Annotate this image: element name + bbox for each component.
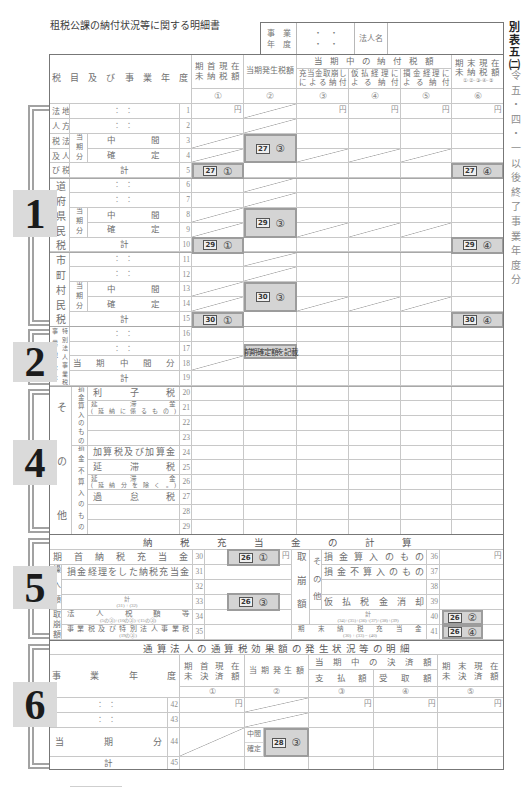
amount-cell[interactable]	[349, 253, 401, 268]
fiscal-period-cell[interactable]: ： ：	[70, 342, 180, 357]
amount-cell[interactable]	[192, 178, 244, 193]
amount-cell[interactable]	[192, 193, 244, 208]
amount-cell[interactable]	[244, 505, 297, 520]
amount-cell[interactable]	[244, 460, 297, 475]
amount-cell[interactable]	[309, 728, 374, 757]
amount-cell[interactable]	[349, 431, 401, 446]
amount-cell[interactable]	[452, 149, 504, 164]
amount-cell[interactable]	[452, 356, 504, 371]
amount-cell[interactable]	[192, 520, 244, 535]
amount-cell[interactable]	[297, 193, 349, 208]
amount-cell[interactable]	[401, 163, 452, 178]
amount-cell[interactable]	[452, 267, 504, 282]
amount-cell[interactable]	[192, 505, 244, 520]
amount-cell[interactable]	[349, 505, 401, 520]
amount-cell[interactable]	[192, 327, 244, 342]
amount-cell[interactable]	[245, 757, 309, 770]
amount-cell[interactable]	[401, 134, 452, 149]
amount-cell[interactable]	[192, 401, 244, 416]
amount-cell[interactable]	[244, 163, 297, 178]
amount-cell[interactable]	[297, 267, 349, 282]
fiscal-period-cell[interactable]: ： ：	[70, 327, 180, 342]
amount-cell[interactable]	[349, 193, 401, 208]
amount-cell[interactable]: 円	[440, 550, 504, 565]
amount-cell[interactable]	[192, 267, 244, 282]
amount-cell[interactable]	[205, 610, 292, 625]
amount-cell[interactable]	[452, 446, 504, 461]
amount-cell[interactable]	[401, 356, 452, 371]
amount-cell[interactable]	[349, 356, 401, 371]
amount-cell[interactable]	[401, 416, 452, 431]
amount-cell[interactable]	[297, 431, 349, 446]
fiscal-period-cell[interactable]: ： ：	[70, 119, 180, 134]
amount-cell[interactable]	[244, 416, 297, 431]
amount-cell[interactable]	[452, 342, 504, 357]
amount-cell[interactable]	[205, 625, 292, 640]
amount-cell[interactable]	[192, 460, 244, 475]
amount-cell[interactable]	[440, 595, 504, 610]
amount-cell[interactable]	[401, 253, 452, 268]
row-label[interactable]	[88, 505, 180, 520]
amount-cell[interactable]	[309, 757, 374, 770]
amount-cell[interactable]	[244, 490, 297, 505]
amount-cell[interactable]: 円	[452, 104, 504, 119]
amount-cell[interactable]	[401, 342, 452, 357]
amount-cell[interactable]	[244, 520, 297, 535]
amount-cell[interactable]	[349, 178, 401, 193]
amount-cell[interactable]	[297, 475, 349, 490]
amount-cell[interactable]	[244, 371, 297, 386]
amount-cell[interactable]	[401, 267, 452, 282]
amount-cell[interactable]	[192, 416, 244, 431]
amount-cell[interactable]	[297, 386, 349, 401]
amount-cell[interactable]: 円	[374, 698, 438, 713]
amount-cell[interactable]	[452, 416, 504, 431]
amount-cell[interactable]	[374, 728, 438, 757]
amount-cell[interactable]	[401, 431, 452, 446]
amount-cell[interactable]	[297, 253, 349, 268]
amount-cell[interactable]	[192, 119, 244, 134]
amount-cell[interactable]	[401, 119, 452, 134]
amount-cell[interactable]	[349, 327, 401, 342]
amount-cell[interactable]: 円	[438, 698, 504, 713]
amount-cell[interactable]	[438, 728, 504, 757]
amount-cell[interactable]	[401, 238, 452, 253]
amount-cell[interactable]	[297, 505, 349, 520]
amount-cell[interactable]	[401, 312, 452, 327]
amount-cell[interactable]	[192, 490, 244, 505]
amount-cell[interactable]	[244, 312, 297, 327]
amount-cell[interactable]	[349, 119, 401, 134]
amount-cell[interactable]	[401, 475, 452, 490]
amount-cell[interactable]	[297, 163, 349, 178]
amount-cell[interactable]	[452, 460, 504, 475]
amount-cell[interactable]	[192, 446, 244, 461]
amount-cell[interactable]	[438, 713, 504, 728]
amount-cell[interactable]	[452, 401, 504, 416]
amount-cell[interactable]	[192, 253, 244, 268]
amount-cell[interactable]	[349, 134, 401, 149]
amount-cell[interactable]: 円	[401, 104, 452, 119]
amount-cell[interactable]	[297, 119, 349, 134]
amount-cell[interactable]	[452, 371, 504, 386]
amount-cell[interactable]	[297, 401, 349, 416]
amount-cell[interactable]	[452, 520, 504, 535]
amount-cell[interactable]	[401, 327, 452, 342]
amount-cell[interactable]	[374, 757, 438, 770]
amount-cell[interactable]	[297, 327, 349, 342]
amount-cell[interactable]	[349, 208, 401, 223]
amount-cell[interactable]	[180, 757, 245, 770]
amount-cell[interactable]	[401, 208, 452, 223]
amount-cell[interactable]	[452, 386, 504, 401]
amount-cell[interactable]	[374, 713, 438, 728]
amount-cell[interactable]	[452, 327, 504, 342]
amount-cell[interactable]	[297, 282, 349, 297]
amount-cell[interactable]	[401, 460, 452, 475]
amount-cell[interactable]	[349, 238, 401, 253]
amount-cell[interactable]	[244, 475, 297, 490]
amount-cell[interactable]	[349, 371, 401, 386]
amount-cell[interactable]	[244, 401, 297, 416]
amount-cell[interactable]	[452, 193, 504, 208]
amount-cell[interactable]: 円	[349, 104, 401, 119]
amount-cell[interactable]	[452, 490, 504, 505]
amount-cell[interactable]	[452, 475, 504, 490]
amount-cell[interactable]	[349, 446, 401, 461]
